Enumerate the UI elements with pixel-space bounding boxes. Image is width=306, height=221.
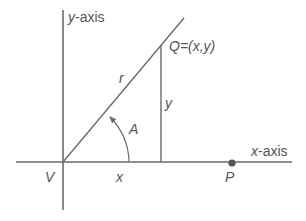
angle-arc [110, 117, 129, 161]
point-p-dot [228, 159, 235, 166]
x-axis-label-rest: -axis [258, 143, 288, 159]
height-label: y [165, 96, 172, 110]
x-axis-label-var: x [251, 143, 258, 159]
y-axis-label-var: y [68, 9, 75, 25]
x-axis-label: x-axis [251, 144, 288, 158]
point-p-label: P [225, 170, 234, 184]
angle-label: A [129, 122, 138, 136]
origin-label: V [45, 170, 54, 184]
radius-line [63, 18, 184, 162]
diagram-canvas: y-axis Q=(x,y) r y A x V P x-axis [0, 0, 306, 221]
y-axis-label-rest: -axis [75, 9, 105, 25]
point-q-label: Q=(x,y) [169, 39, 215, 53]
y-axis-label: y-axis [68, 10, 105, 24]
radius-label: r [119, 71, 124, 85]
base-label: x [116, 170, 123, 184]
diagram-svg [0, 0, 306, 221]
